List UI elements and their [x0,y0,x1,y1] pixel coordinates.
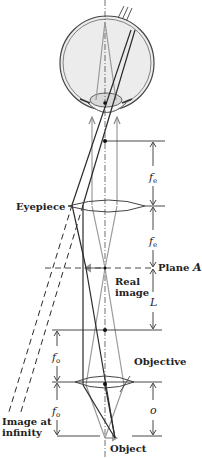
eyepiece-label: Eyepiece [16,201,65,212]
L-label: L [149,296,157,309]
fo-lower-label: fo [51,405,60,419]
image-at-infinity-label-1: Image at [2,416,52,427]
eyepiece-lens [68,200,145,212]
o-label: o [150,404,157,417]
eye [60,6,154,113]
plane-a-label: Plane A [158,261,202,274]
object-label: Object [110,443,147,454]
real-image-label-1: Real [115,276,140,287]
dimension-arrows-left [54,331,60,435]
dimension-arrows-right [150,142,156,435]
objective-label: Objective [134,356,186,367]
fe-upper-label: fe [148,171,157,185]
real-image-label-2: image [115,287,149,298]
image-at-infinity-label-2: infinity [2,427,43,438]
virtual-rays [8,205,83,415]
microscope-diagram: Eyepiece Plane A Real image Objective Im… [0,0,202,458]
fe-lower-label: fe [148,235,157,249]
fo-upper-label: fo [51,351,60,365]
